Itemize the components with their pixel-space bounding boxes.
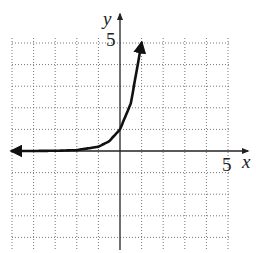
y-axis-label: y <box>101 8 112 29</box>
grid-lines <box>12 38 230 250</box>
exponential-graph: y 5 5 x <box>0 0 256 253</box>
x-axis-label: x <box>241 151 251 172</box>
x-tick-label-5: 5 <box>222 154 232 175</box>
y-tick-label-5: 5 <box>106 29 116 50</box>
